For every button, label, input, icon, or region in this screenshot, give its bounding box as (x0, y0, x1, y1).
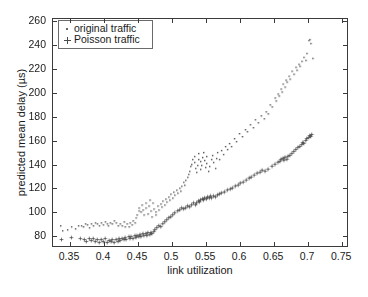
scatter-points-canvas (53, 19, 347, 246)
x-axis-tick-label: 0.6 (232, 250, 247, 262)
y-axis-tick-right (343, 165, 347, 166)
y-axis-tick-label: 200 (46, 86, 64, 98)
x-axis-tick-top (240, 19, 241, 23)
x-axis-tick-label: 0.4 (96, 250, 111, 262)
y-axis-tick-label: 140 (46, 158, 64, 170)
figure-scatter-plot: predicted mean delay (µs) original traff… (0, 0, 368, 297)
x-axis-tick-label: 0.45 (127, 250, 147, 262)
plus-marker-icon (62, 34, 73, 45)
x-axis-tick-label: 0.55 (195, 250, 215, 262)
y-axis-tick-label: 100 (46, 205, 64, 217)
y-axis-tick-label: 260 (46, 14, 64, 26)
x-axis-tick-top (104, 19, 105, 23)
dot-marker-icon (62, 23, 73, 34)
y-axis-title: predicted mean delay (µs) (14, 18, 28, 247)
y-axis-tick-right (343, 45, 347, 46)
y-axis-tick-label: 160 (46, 134, 64, 146)
x-axis-tick-top (172, 19, 173, 23)
legend: original traffic Poisson traffic (58, 20, 153, 49)
y-axis-tick-right (343, 93, 347, 94)
y-axis-tick-label: 120 (46, 181, 64, 193)
y-axis-tick-right (343, 69, 347, 70)
y-axis-tick-right (343, 117, 347, 118)
x-axis-tick-top (70, 19, 71, 23)
y-axis-tick-label: 80 (46, 229, 58, 241)
x-axis-tick (240, 242, 241, 246)
y-axis-tick-label: 220 (46, 62, 64, 74)
x-axis-tick (274, 242, 275, 246)
x-axis-tick-label: 0.7 (300, 250, 315, 262)
plot-area: original traffic Poisson traffic (52, 18, 348, 247)
x-axis-tick-top (138, 19, 139, 23)
x-axis-tick (104, 242, 105, 246)
y-axis-tick-label: 240 (46, 38, 64, 50)
legend-item-poisson-traffic: Poisson traffic (62, 34, 149, 45)
x-axis-tick (138, 242, 139, 246)
x-axis-tick (172, 242, 173, 246)
x-axis-tick-top (308, 19, 309, 23)
y-axis-tick-right (343, 236, 347, 237)
x-axis-tick (206, 242, 207, 246)
legend-label-poisson-traffic: Poisson traffic (74, 34, 140, 45)
x-axis-tick-label: 0.75 (331, 250, 351, 262)
x-axis-tick (308, 242, 309, 246)
y-axis-tick-right (343, 188, 347, 189)
y-axis-tick-label: 180 (46, 110, 64, 122)
y-axis-tick-right (343, 141, 347, 142)
x-axis-tick (342, 242, 343, 246)
x-axis-tick-label: 0.5 (164, 250, 179, 262)
x-axis-tick (70, 242, 71, 246)
y-axis-tick-right (343, 21, 347, 22)
x-axis-tick-top (206, 19, 207, 23)
y-axis-tick-right (343, 212, 347, 213)
x-axis-tick-label: 0.65 (263, 250, 283, 262)
x-axis-title: link utilization (52, 264, 348, 276)
x-axis-tick-top (274, 19, 275, 23)
x-axis-tick-label: 0.35 (59, 250, 79, 262)
